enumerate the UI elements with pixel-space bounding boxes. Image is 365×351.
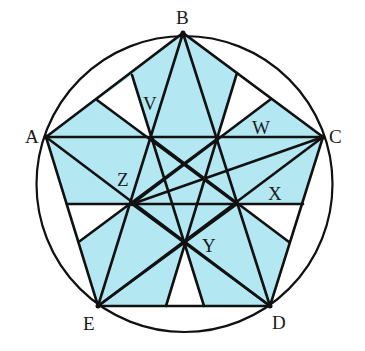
vertex-label-a: A <box>25 126 39 147</box>
vertex-label-d: D <box>272 312 286 333</box>
region-label-y: Y <box>202 235 216 256</box>
region-label-x: X <box>268 183 282 204</box>
region-label-v: V <box>143 93 157 114</box>
vertex-label-b: B <box>176 7 189 28</box>
region-label-w: W <box>252 117 270 138</box>
vertex-label-e: E <box>83 313 95 334</box>
pentagon-diagram: A B C D E V W X Y Z <box>0 0 365 351</box>
vertex-label-c: C <box>329 126 342 147</box>
region-label-z: Z <box>117 169 129 190</box>
